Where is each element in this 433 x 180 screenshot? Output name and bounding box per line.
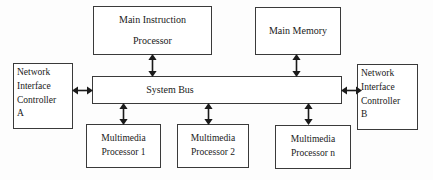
node-label-line-1: Multimedia: [191, 132, 235, 146]
node-label-line-4: B: [361, 108, 367, 122]
connector-bus-to-nic-b-double-arrow-icon: [341, 84, 362, 97]
node-main-memory: Main Memory: [255, 7, 341, 55]
node-main-instruction-processor: Main Instruction Processor: [93, 6, 212, 55]
connector-bus-to-mpn-double-arrow-icon: [302, 103, 315, 125]
node-network-interface-controller-b: Network Interface Controller B: [357, 64, 418, 130]
node-label-line-3: Controller: [17, 94, 56, 108]
node-network-interface-controller-a: Network Interface Controller A: [13, 63, 73, 129]
node-label-line-1: Main Memory: [269, 24, 327, 39]
node-label-line-2: Processor 2: [191, 146, 235, 160]
node-multimedia-processor-n: Multimedia Processor n: [275, 125, 351, 169]
node-label-line-2: Processor n: [291, 147, 335, 161]
node-label-line-2: Processor 1: [101, 146, 145, 160]
node-label-line-3: Controller: [361, 95, 400, 109]
connector-bus-to-mp1-double-arrow-icon: [117, 103, 130, 125]
node-label-line-1: Multimedia: [101, 132, 145, 146]
connector-mip-to-bus-double-arrow-icon: [146, 54, 159, 77]
node-label-line-1: Multimedia: [291, 133, 335, 147]
diagram-canvas: Main Instruction Processor Main Memory S…: [0, 0, 433, 180]
node-label-line-1: Main Instruction: [119, 13, 186, 28]
node-label-line-1: System Bus: [146, 83, 194, 98]
node-system-bus: System Bus: [92, 76, 342, 104]
node-label-line-2: Interface: [361, 81, 395, 95]
node-label-line-1: Network: [361, 67, 394, 81]
node-label-line-1: Network: [17, 66, 50, 80]
connector-memory-to-bus-double-arrow-icon: [290, 54, 303, 77]
node-multimedia-processor-2: Multimedia Processor 2: [177, 124, 249, 168]
connector-nic-a-to-bus-double-arrow-icon: [72, 84, 93, 97]
node-multimedia-processor-1: Multimedia Processor 1: [86, 124, 161, 168]
node-label-line-2: Interface: [17, 80, 51, 94]
node-label-line-4: A: [17, 107, 24, 121]
node-label-line-2: Processor: [133, 34, 172, 49]
connector-bus-to-mp2-double-arrow-icon: [202, 103, 215, 125]
